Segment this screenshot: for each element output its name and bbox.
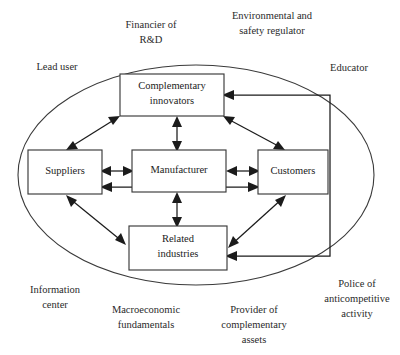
environmental-and-safety-regulator-line2: safety regulator (239, 25, 305, 36)
police-of-anticompetitive-activity-line1: Police of (338, 278, 376, 289)
police-of-anticompetitive-activity-line3: activity (341, 308, 373, 319)
outer-label-educator: Educator (330, 62, 368, 73)
lead-user-line1: Lead user (36, 61, 78, 72)
information-center-line1: Information (30, 284, 81, 295)
outer-label-police-of-anticompetitive-activity: Police of anticompetitive activity (324, 278, 390, 319)
outer-label-environmental-and-safety-regulator: Environmental and safety regulator (232, 10, 313, 36)
node-manufacturer[interactable]: Manufacturer (132, 150, 226, 192)
provider-of-complementary-assets-line2: complementary (221, 319, 287, 330)
macroeconomic-fundamentals-line1: Macroeconomic (112, 304, 181, 315)
node-customers[interactable]: Customers (258, 150, 328, 194)
edge-suppliers-complementary-innovators (66, 116, 120, 150)
node-related-industries[interactable]: Related industries (129, 226, 227, 270)
edge-manufacturer-related-industries (172, 192, 182, 228)
node-layer: Complementary innovators Suppliers Manuf… (28, 74, 328, 270)
node-complementary-innovators[interactable]: Complementary innovators (120, 74, 224, 116)
information-center-line2: center (42, 299, 68, 310)
macroeconomic-fundamentals-line2: fundamentals (118, 319, 175, 330)
complementary-innovators-label-line1: Complementary (138, 80, 206, 91)
suppliers-label: Suppliers (45, 165, 85, 176)
edge-related-industries-customers (228, 195, 286, 248)
educator-line1: Educator (330, 62, 368, 73)
related-industries-label-line2: industries (158, 248, 199, 259)
diagram-canvas: Complementary innovators Suppliers Manuf… (0, 0, 400, 355)
outer-label-financier-of-rd: Financier of R&D (125, 19, 177, 45)
outer-label-information-center: Information center (30, 284, 81, 310)
manufacturer-label: Manufacturer (150, 164, 208, 175)
outer-label-lead-user: Lead user (36, 61, 78, 72)
provider-of-complementary-assets-line3: assets (242, 334, 267, 345)
financier-of-rd-line2: R&D (140, 34, 163, 45)
edge-complementary-innovators-customers (223, 116, 285, 150)
police-of-anticompetitive-activity-line2: anticompetitive (324, 293, 390, 304)
related-industries-label-line1: Related (162, 233, 195, 244)
outer-label-macroeconomic-fundamentals: Macroeconomic fundamentals (112, 304, 181, 330)
edge-manufacturer-customers (226, 166, 260, 176)
edge-suppliers-manufacturer (100, 166, 134, 176)
provider-of-complementary-assets-line1: Provider of (230, 304, 278, 315)
outer-label-provider-of-complementary-assets: Provider of complementary assets (221, 304, 287, 345)
customers-label: Customers (271, 165, 316, 176)
environmental-and-safety-regulator-line1: Environmental and (232, 10, 313, 21)
innovation-system-diagram: Complementary innovators Suppliers Manuf… (0, 0, 400, 355)
financier-of-rd-line1: Financier of (125, 19, 177, 30)
edge-complementary-innovators-manufacturer (172, 116, 182, 152)
node-suppliers[interactable]: Suppliers (28, 150, 102, 194)
edge-suppliers-related-industries (66, 195, 126, 245)
complementary-innovators-label-line2: innovators (150, 95, 194, 106)
